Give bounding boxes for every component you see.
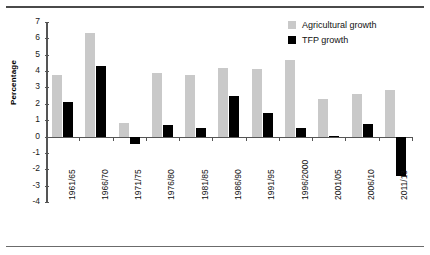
x-axis-tick-label: 2006/10: [366, 169, 376, 200]
bar-agricultural-growth: [185, 75, 195, 136]
bar-agricultural-growth: [218, 68, 228, 137]
legend-label: TFP growth: [302, 35, 348, 45]
bottom-divider: [6, 246, 424, 247]
x-axis-tick: [412, 137, 413, 141]
y-axis-tick-label: 4: [22, 65, 40, 75]
y-axis-tick-label: -4: [22, 196, 40, 206]
y-axis-tick-label: 0: [22, 131, 40, 141]
x-axis-tick-label: 1971/75: [133, 169, 143, 200]
y-axis-tick-label: -3: [22, 180, 40, 190]
bar-agricultural-growth: [352, 94, 362, 137]
x-axis-tick-label: 1981/85: [200, 169, 210, 200]
x-axis-tick-label: 1991/95: [266, 169, 276, 200]
bar-tfp-growth: [96, 66, 106, 136]
y-axis-tick-label: 1: [22, 114, 40, 124]
y-axis-tick-label: 6: [22, 32, 40, 42]
legend-item-agricultural-growth: Agricultural growth: [288, 20, 377, 30]
black-square-swatch-icon: [288, 36, 296, 44]
x-axis-tick-label: 1961/65: [67, 169, 77, 200]
y-axis-tick: [45, 202, 49, 203]
chart-figure: Percentage 76543210-1-2-3-4 1961/651966/…: [0, 0, 430, 255]
x-axis-tick-label: 1986/90: [233, 169, 243, 200]
x-axis-tick-label: 1966/70: [100, 169, 110, 200]
chart-legend: Agricultural growth TFP growth: [288, 20, 377, 50]
y-axis-title: Percentage: [9, 48, 18, 118]
bar-tfp-growth: [229, 96, 239, 137]
bar-agricultural-growth: [252, 69, 262, 136]
gray-square-swatch-icon: [288, 21, 296, 29]
x-axis-tick-labels: 1961/651966/701971/751976/801981/851986/…: [46, 132, 412, 202]
y-axis-tick-label: 5: [22, 49, 40, 59]
legend-label: Agricultural growth: [302, 20, 377, 30]
x-axis-tick-label: 2011/13: [399, 170, 409, 200]
bar-agricultural-growth: [85, 33, 95, 137]
bar-agricultural-growth: [318, 99, 328, 137]
bar-agricultural-growth: [52, 75, 62, 136]
y-axis-tick-label: -2: [22, 163, 40, 173]
x-axis-tick-label: 1976/80: [166, 169, 176, 200]
bar-agricultural-growth: [285, 60, 295, 136]
top-divider: [6, 6, 424, 8]
y-axis-tick-label: 2: [22, 98, 40, 108]
bar-agricultural-growth: [152, 73, 162, 137]
y-axis-tick-label: 3: [22, 81, 40, 91]
bar-agricultural-growth: [385, 90, 395, 137]
legend-item-tfp-growth: TFP growth: [288, 35, 377, 45]
y-axis-tick-label: 7: [22, 16, 40, 26]
x-axis-tick-label: 2001/05: [333, 169, 343, 200]
y-axis-tick-label: -1: [22, 147, 40, 157]
x-axis-tick-label: 1996/2000: [300, 160, 310, 200]
